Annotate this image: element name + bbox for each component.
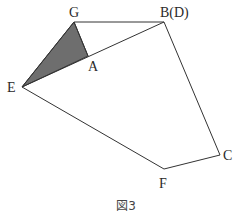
figure-caption: 図3 — [116, 199, 136, 213]
label-f: F — [159, 176, 167, 191]
segment-fe — [22, 87, 164, 169]
label-c: C — [223, 148, 232, 163]
label-a: A — [88, 59, 99, 74]
label-e: E — [7, 80, 16, 95]
segment-bc — [164, 22, 220, 155]
label-b-d: B(D) — [160, 5, 189, 21]
label-g: G — [69, 5, 79, 20]
geometry-figure: G B(D) A E C F 図3 — [0, 0, 240, 218]
segment-cf — [164, 155, 220, 169]
segment-eb — [22, 22, 164, 87]
